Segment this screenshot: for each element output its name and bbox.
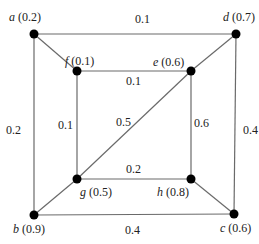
node-b bbox=[30, 211, 39, 220]
node-value: (0.6) bbox=[225, 221, 251, 235]
node-d bbox=[232, 30, 241, 39]
edge-weight-f-e: 0.1 bbox=[126, 74, 141, 88]
node-label-g: g (0.5) bbox=[80, 185, 112, 199]
edge-weight-a-d: 0.1 bbox=[135, 12, 150, 26]
node-g bbox=[73, 175, 82, 184]
edge-b-g bbox=[34, 179, 77, 215]
node-e bbox=[187, 67, 196, 76]
node-value: (0.8) bbox=[163, 185, 189, 199]
node-value: (0.6) bbox=[158, 55, 184, 69]
node-value: (0.1) bbox=[68, 54, 94, 68]
node-value: (0.7) bbox=[229, 10, 255, 24]
node-a bbox=[30, 30, 39, 39]
node-label-f: f (0.1) bbox=[65, 54, 94, 68]
edge-d-c bbox=[234, 34, 236, 214]
edge-b-c bbox=[34, 214, 234, 215]
node-label-a: a (0.2) bbox=[9, 10, 41, 24]
node-value: (0.2) bbox=[15, 10, 41, 24]
graph-canvas: 0.10.20.40.40.10.10.60.20.5 a (0.2)d (0.… bbox=[0, 0, 259, 244]
edge-weight-b-c: 0.4 bbox=[125, 223, 140, 237]
edge-h-c bbox=[191, 179, 234, 214]
edge-weight-e-h: 0.6 bbox=[194, 116, 209, 130]
node-value: (0.5) bbox=[86, 185, 112, 199]
node-label-d: d (0.7) bbox=[223, 10, 255, 24]
edge-weight-g-e: 0.5 bbox=[116, 115, 131, 129]
edge-weight-d-c: 0.4 bbox=[243, 123, 258, 137]
node-h bbox=[187, 175, 196, 184]
node-c bbox=[230, 210, 239, 219]
edge-weight-f-g: 0.1 bbox=[58, 118, 73, 132]
node-label-e: e (0.6) bbox=[153, 55, 184, 69]
node-value: (0.9) bbox=[19, 222, 45, 236]
node-label-h: h (0.8) bbox=[157, 185, 189, 199]
edge-e-d bbox=[191, 34, 236, 71]
edge-weight-a-b: 0.2 bbox=[6, 123, 21, 137]
edge-weight-g-h: 0.2 bbox=[126, 162, 141, 176]
node-label-b: b (0.9) bbox=[13, 222, 45, 236]
node-label-c: c (0.6) bbox=[220, 221, 251, 235]
